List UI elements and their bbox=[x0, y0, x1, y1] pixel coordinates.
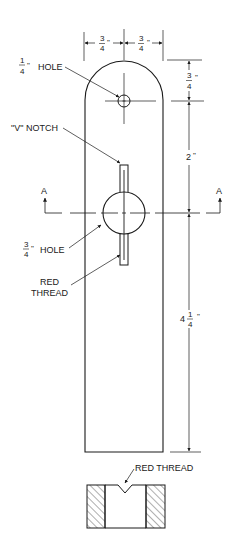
large-hole-and-slot bbox=[103, 165, 145, 265]
svg-text:": " bbox=[147, 38, 150, 47]
svg-text:4: 4 bbox=[100, 44, 105, 53]
top-width-dimension bbox=[84, 29, 163, 61]
svg-text:3: 3 bbox=[24, 240, 29, 249]
small-hole bbox=[105, 73, 156, 124]
svg-text:3: 3 bbox=[187, 71, 192, 80]
svg-text:": " bbox=[107, 38, 110, 47]
label-red-thread-line2: THREAD bbox=[31, 288, 69, 298]
svg-text:": " bbox=[195, 73, 198, 82]
label-red-thread-line1: RED bbox=[40, 277, 60, 287]
svg-text:3: 3 bbox=[139, 34, 144, 43]
svg-text:4: 4 bbox=[188, 320, 193, 329]
svg-text:": " bbox=[193, 151, 196, 160]
section-view bbox=[87, 485, 165, 528]
svg-text:3: 3 bbox=[100, 34, 105, 43]
section-marker-right: A bbox=[216, 186, 222, 196]
svg-text:1: 1 bbox=[188, 310, 193, 319]
svg-text:": " bbox=[31, 244, 34, 253]
svg-text:4: 4 bbox=[187, 82, 192, 91]
svg-text:1: 1 bbox=[20, 56, 25, 65]
svg-text:4: 4 bbox=[139, 44, 144, 53]
dim-right-top: 3 4 " bbox=[185, 70, 198, 91]
label-small-hole: 1 4 " HOLE bbox=[19, 56, 63, 76]
svg-text:HOLE: HOLE bbox=[40, 245, 65, 255]
label-section-red-thread: RED THREAD bbox=[135, 463, 194, 473]
svg-text:4: 4 bbox=[24, 250, 29, 259]
dim-top-left: 3 4 " bbox=[99, 34, 110, 53]
label-large-hole: 3 4 " HOLE bbox=[23, 240, 65, 259]
dim-top-right: 3 4 " bbox=[138, 34, 150, 53]
right-height-dimensions bbox=[167, 60, 204, 452]
section-marker-left: A bbox=[41, 186, 47, 196]
dim-right-middle: 2 " bbox=[186, 151, 196, 162]
svg-text:4: 4 bbox=[20, 67, 25, 76]
dim-right-bottom: 4 1 4 " bbox=[180, 310, 200, 329]
svg-text:": " bbox=[197, 312, 200, 321]
svg-text:": " bbox=[27, 61, 30, 70]
technical-drawing: A A 3 4 " 3 4 " 3 4 bbox=[0, 0, 234, 540]
svg-text:HOLE: HOLE bbox=[38, 62, 63, 72]
svg-text:4: 4 bbox=[180, 314, 185, 324]
svg-text:2: 2 bbox=[186, 152, 191, 162]
leaders bbox=[63, 67, 134, 483]
label-v-notch: "V" NOTCH bbox=[11, 123, 58, 133]
